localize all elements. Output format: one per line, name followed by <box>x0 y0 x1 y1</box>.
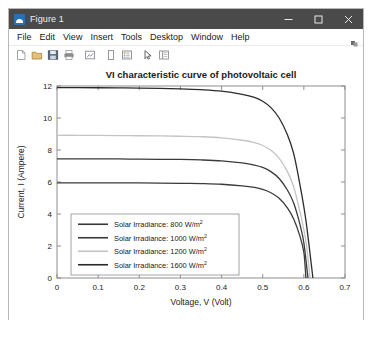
legend-label: Solar Irradiance: 1000 W/m2 <box>114 233 207 243</box>
edit-plot-icon[interactable] <box>140 48 155 63</box>
x-tick-label: 0.2 <box>134 283 146 292</box>
y-tick-label: 2 <box>48 242 53 251</box>
matlab-figure-icon <box>14 14 25 25</box>
menu-item-help[interactable]: Help <box>227 29 254 45</box>
menu-item-desktop[interactable]: Desktop <box>146 29 187 45</box>
chart-title: VI characteristic curve of photovoltaic … <box>106 69 297 80</box>
menu-item-insert[interactable]: Insert <box>86 29 117 45</box>
toolbar-separator-3 <box>135 48 139 63</box>
insert-colorbar-icon[interactable] <box>103 48 118 63</box>
figure-window: Figure 1 File Edit View Insert Tools Des… <box>8 8 364 320</box>
x-axis-title: Voltage, V (Volt) <box>171 297 232 307</box>
y-tick-label: 8 <box>48 146 53 155</box>
menu-item-file[interactable]: File <box>13 29 36 45</box>
toolbar <box>9 46 363 64</box>
menu-item-tools[interactable]: Tools <box>117 29 146 45</box>
overflow-chevron-icon[interactable] <box>351 33 358 40</box>
toolbar-separator-2 <box>98 48 102 63</box>
y-axis-title: Current, I (Ampere) <box>16 145 26 218</box>
x-tick-label: 0 <box>55 283 60 292</box>
legend-label: Solar Irradiance: 1600 W/m2 <box>114 260 207 270</box>
x-tick-label: 0.6 <box>298 283 310 292</box>
maximize-icon[interactable] <box>303 9 333 29</box>
legend-label: Solar Irradiance: 1200 W/m2 <box>114 246 207 256</box>
x-tick-label: 0.4 <box>216 283 228 292</box>
menu-item-edit[interactable]: Edit <box>36 29 60 45</box>
hide-plot-tools-icon[interactable] <box>156 48 171 63</box>
plot-area: VI characteristic curve of photovoltaic … <box>9 64 363 320</box>
window-title: Figure 1 <box>30 14 64 24</box>
menu-item-window[interactable]: Window <box>187 29 227 45</box>
chart-legend[interactable]: Solar Irradiance: 800 W/m2Solar Irradian… <box>71 214 239 275</box>
menu-item-view[interactable]: View <box>59 29 86 45</box>
print-figure-icon[interactable] <box>61 48 76 63</box>
save-figure-icon[interactable] <box>45 48 60 63</box>
vi-characteristic-chart: VI characteristic curve of photovoltaic … <box>9 64 363 320</box>
x-tick-label: 0.1 <box>93 283 105 292</box>
y-tick-label: 4 <box>48 210 53 219</box>
y-tick-label: 0 <box>48 274 53 283</box>
open-file-icon[interactable] <box>29 48 44 63</box>
y-tick-label: 10 <box>43 114 52 123</box>
x-tick-label: 0.5 <box>257 283 269 292</box>
y-tick-label: 12 <box>43 82 52 91</box>
x-tick-label: 0.7 <box>339 283 351 292</box>
window-titlebar: Figure 1 <box>9 9 363 29</box>
legend-superscript: 2 <box>204 260 207 266</box>
x-tick-label: 0.3 <box>175 283 187 292</box>
y-tick-label: 6 <box>48 178 53 187</box>
toolbar-separator-1 <box>77 48 81 63</box>
menubar: File Edit View Insert Tools Desktop Wind… <box>9 29 363 46</box>
new-figure-icon[interactable] <box>13 48 28 63</box>
legend-superscript: 2 <box>204 233 207 239</box>
chart-title-group: VI characteristic curve of photovoltaic … <box>106 69 297 80</box>
insert-legend-icon[interactable] <box>119 48 134 63</box>
minimize-icon[interactable] <box>273 9 303 29</box>
legend-superscript: 2 <box>204 246 207 252</box>
link-plot-icon[interactable] <box>82 48 97 63</box>
close-icon[interactable] <box>333 9 363 29</box>
window-controls <box>273 9 363 29</box>
legend-label: Solar Irradiance: 800 W/m2 <box>114 219 203 229</box>
legend-superscript: 2 <box>200 219 203 225</box>
